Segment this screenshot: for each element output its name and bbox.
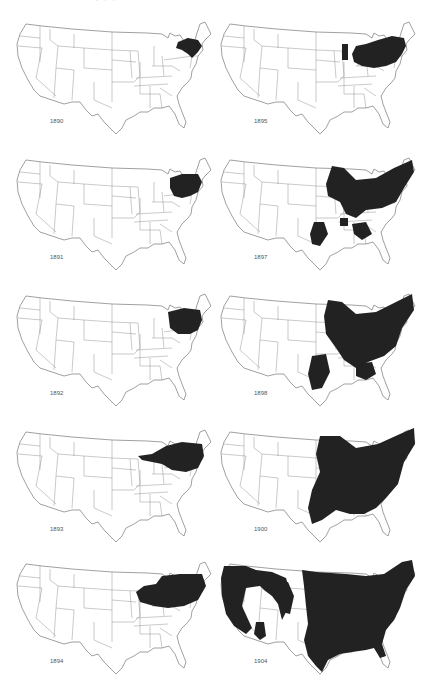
- year-label: 1895: [254, 118, 267, 124]
- year-label: 1893: [50, 526, 63, 532]
- us-map-graphic: [12, 556, 212, 684]
- infested-region: [342, 44, 348, 60]
- map-1894: 1894: [12, 556, 212, 684]
- infested-region: [326, 160, 414, 218]
- map-1892: 1892: [12, 288, 212, 416]
- map-1893: 1893: [12, 424, 212, 552]
- year-label: 1891: [50, 254, 63, 260]
- map-1900: 1900: [216, 424, 416, 552]
- year-label: 1890: [50, 118, 63, 124]
- map-1904: 1904: [216, 556, 416, 684]
- us-map-graphic: [12, 424, 212, 552]
- us-map-graphic: [12, 152, 212, 280]
- infested-region: [176, 38, 202, 58]
- us-map-graphic: [12, 288, 212, 416]
- year-label: 1892: [50, 390, 63, 396]
- us-map-graphic: [216, 556, 416, 684]
- year-label: 1894: [50, 658, 63, 664]
- us-map-graphic: [216, 16, 416, 144]
- infested-region: [308, 354, 330, 390]
- us-map-graphic: [12, 16, 212, 144]
- year-label: 1900: [254, 526, 267, 532]
- us-map-graphic: [216, 288, 416, 416]
- infested-region: [254, 622, 266, 640]
- year-label: 1898: [254, 390, 267, 396]
- map-1895: 1895: [216, 16, 416, 144]
- infested-region: [352, 222, 372, 240]
- map-1891: 1891: [12, 152, 212, 280]
- map-1898: 1898: [216, 288, 416, 416]
- infested-region: [340, 218, 348, 226]
- map-1890: 1890: [12, 16, 212, 144]
- infested-region: [356, 362, 376, 380]
- year-label: 1904: [254, 658, 267, 664]
- infested-region: [308, 428, 415, 524]
- infested-region: [136, 574, 206, 608]
- map-1897: 1897: [216, 152, 416, 280]
- infested-region: [310, 222, 328, 246]
- infested-region: [352, 36, 406, 68]
- infested-region: [302, 560, 415, 672]
- top-caption-fragment: · · ·: [95, 0, 117, 5]
- us-map-graphic: [216, 424, 416, 552]
- year-label: 1897: [254, 254, 267, 260]
- infested-region: [324, 294, 414, 368]
- infested-region: [168, 308, 202, 334]
- infested-region: [138, 442, 204, 472]
- us-map-graphic: [216, 152, 416, 280]
